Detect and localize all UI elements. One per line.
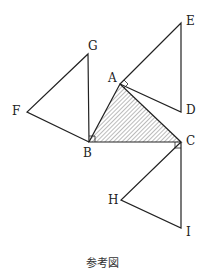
triangle-chi [121, 142, 181, 228]
label-a: A [108, 72, 117, 84]
label-f: F [12, 105, 20, 117]
shaded-triangle-abc [89, 84, 181, 142]
label-b: B [83, 147, 92, 159]
label-c: C [186, 135, 195, 147]
label-e: E [186, 15, 195, 27]
label-i: I [186, 226, 191, 238]
geometry-diagram [0, 0, 205, 274]
figure-caption: 参考図 [0, 254, 205, 270]
label-h: H [108, 194, 118, 206]
label-d: D [186, 104, 196, 116]
triangle-bgf [27, 54, 89, 142]
label-g: G [88, 40, 98, 52]
